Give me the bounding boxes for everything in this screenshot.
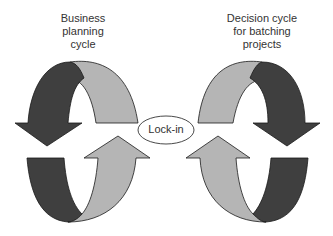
left-cycle-label: Business planning cycle xyxy=(38,12,128,51)
left-bottom-light-arrow xyxy=(68,136,150,222)
right-top-light-band xyxy=(198,61,262,123)
right-bottom-dark-band xyxy=(252,158,308,222)
right-bottom-light-arrow xyxy=(186,136,266,222)
lockin-label: Lock-in xyxy=(138,122,194,136)
right-top-dark-arrow xyxy=(250,62,320,146)
right-cycle-label: Decision cycle for batching projects xyxy=(207,12,317,51)
cycle-diagram: Business planning cycle Decision cycle f… xyxy=(0,0,333,236)
left-bottom-dark-band xyxy=(27,158,83,222)
left-top-dark-arrow xyxy=(15,62,84,146)
